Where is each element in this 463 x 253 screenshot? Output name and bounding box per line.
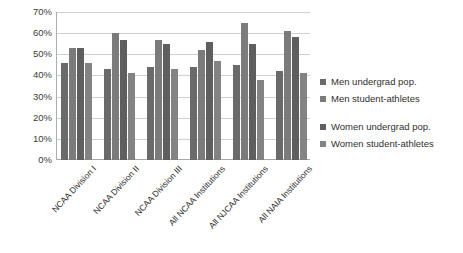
y-axis-tick-label: 60%: [14, 28, 52, 38]
bar[interactable]: [214, 61, 221, 160]
y-axis-tick-label: 70%: [14, 7, 52, 17]
legend-item[interactable]: Men student-athletes: [320, 91, 463, 106]
legend-item[interactable]: Women student-athletes: [320, 136, 463, 151]
legend-swatch-icon: [320, 79, 326, 85]
x-axis-category-label-text: NCAA Division I: [50, 164, 98, 214]
x-axis-category-labels: NCAA Division INCAA Division IINCAA Divi…: [56, 163, 316, 253]
legend-item[interactable]: Men undergrad pop.: [320, 74, 463, 89]
bar-chart: 70%60%50%40%30%20%10%0% NCAA Division IN…: [0, 0, 463, 253]
bar[interactable]: [85, 63, 92, 160]
y-axis-tick-label: 40%: [14, 71, 52, 81]
legend-item-label: Men undergrad pop.: [331, 76, 417, 87]
legend-swatch-icon: [320, 124, 326, 130]
bar-group: [61, 12, 92, 160]
bar-groups: [57, 12, 310, 160]
bar[interactable]: [128, 73, 135, 160]
legend-swatch-icon: [320, 141, 326, 147]
y-axis-tick-label: 20%: [14, 113, 52, 123]
plot-area: [56, 12, 310, 160]
chart-legend: Men undergrad pop.Men student-athletesWo…: [320, 74, 463, 153]
bar[interactable]: [69, 48, 76, 160]
legend-swatch-icon: [320, 96, 326, 102]
bar[interactable]: [171, 69, 178, 160]
y-axis-tick-label: 30%: [14, 92, 52, 102]
y-axis-tick-label: 0%: [14, 155, 52, 165]
plot-wrapper: 70%60%50%40%30%20%10%0% NCAA Division IN…: [0, 0, 320, 175]
y-axis-tick-label: 50%: [14, 50, 52, 60]
legend-item[interactable]: Women undergrad pop.: [320, 119, 463, 134]
bar[interactable]: [61, 63, 68, 160]
legend-item-label: Women undergrad pop.: [331, 121, 431, 132]
y-axis-tick-labels: 70%60%50%40%30%20%10%0%: [14, 12, 52, 160]
bar[interactable]: [77, 48, 84, 160]
legend-item-label: Women student-athletes: [331, 138, 434, 149]
legend-item-label: Men student-athletes: [331, 93, 420, 104]
y-axis-tick-label: 10%: [14, 134, 52, 144]
